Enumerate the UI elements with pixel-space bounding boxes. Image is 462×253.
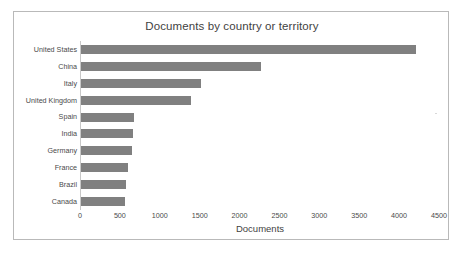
- bar-row: [81, 159, 440, 176]
- bar[interactable]: [81, 62, 261, 71]
- chart-container: Documents by country or territory United…: [13, 11, 449, 240]
- x-tick-label: 1500: [192, 212, 208, 219]
- bar[interactable]: [81, 163, 128, 172]
- bar[interactable]: [81, 129, 133, 138]
- bar-row: [81, 176, 440, 193]
- bar-row: [81, 92, 440, 109]
- bar-row: [81, 142, 440, 159]
- category-label: United States: [34, 46, 77, 53]
- stray-speck: [435, 113, 437, 114]
- category-label-row: Canada: [14, 193, 77, 210]
- bar-row: [81, 193, 440, 210]
- category-label-row: Brazil: [14, 176, 77, 193]
- bar[interactable]: [81, 146, 132, 155]
- category-label-row: United Kingdom: [14, 92, 77, 109]
- bar[interactable]: [81, 113, 134, 122]
- x-tick-label: 3000: [311, 212, 327, 219]
- x-tick-label: 4500: [431, 212, 447, 219]
- x-tick-label: 4000: [391, 212, 407, 219]
- category-label: Spain: [59, 113, 77, 120]
- bar[interactable]: [81, 197, 125, 206]
- bar-row: [81, 75, 440, 92]
- category-label: Italy: [64, 80, 77, 87]
- category-label: France: [55, 164, 77, 171]
- x-tick-label: 500: [114, 212, 126, 219]
- x-tick-label: 0: [78, 212, 82, 219]
- category-label-row: United States: [14, 41, 77, 58]
- y-axis-category-labels: United StatesChinaItalyUnited KingdomSpa…: [14, 41, 77, 210]
- bar-row: [81, 109, 440, 126]
- plot-area: [80, 41, 440, 210]
- x-tick-label: 2500: [271, 212, 287, 219]
- bar[interactable]: [81, 45, 416, 54]
- bar-series: [81, 41, 440, 210]
- category-label: India: [61, 130, 77, 137]
- category-label-row: Italy: [14, 75, 77, 92]
- bar-row: [81, 41, 440, 58]
- category-label-row: France: [14, 159, 77, 176]
- category-label: Germany: [47, 147, 77, 154]
- category-label: Brazil: [59, 181, 77, 188]
- bar-row: [81, 58, 440, 75]
- category-label: Canada: [52, 198, 77, 205]
- category-label-row: Germany: [14, 142, 77, 159]
- x-tick-label: 1000: [152, 212, 168, 219]
- category-label: China: [58, 63, 77, 70]
- category-label-row: India: [14, 125, 77, 142]
- bar[interactable]: [81, 96, 191, 105]
- chart-title: Documents by country or territory: [14, 20, 450, 32]
- category-label-row: Spain: [14, 109, 77, 126]
- bar-row: [81, 125, 440, 142]
- category-label: United Kingdom: [26, 97, 77, 104]
- x-axis-title: Documents: [80, 223, 440, 234]
- category-label-row: China: [14, 58, 77, 75]
- bar[interactable]: [81, 79, 201, 88]
- x-tick-label: 3500: [351, 212, 367, 219]
- x-tick-label: 2000: [232, 212, 248, 219]
- bar[interactable]: [81, 180, 126, 189]
